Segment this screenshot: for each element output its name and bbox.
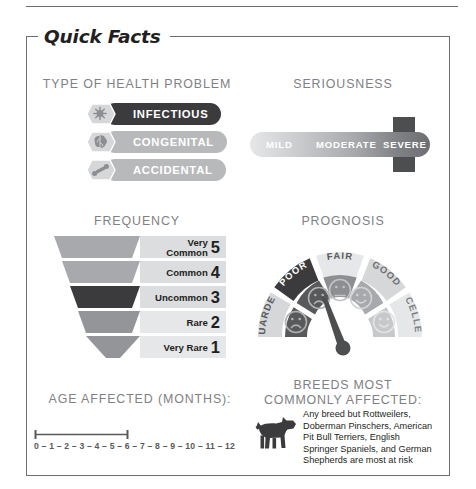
age-affected-heading: AGE AFFECTED (MONTHS):	[40, 392, 240, 406]
frequency-label-uncommon: Uncommon3	[140, 286, 226, 308]
breeds-heading-line2: COMMONLY AFFECTED:	[264, 393, 422, 407]
brain-icon	[86, 131, 116, 153]
type-option-congenital[interactable]: CONGENITAL	[86, 131, 216, 153]
frequency-row-very-rare[interactable]: Very Rare1	[54, 336, 226, 358]
frequency-row-very-common[interactable]: VeryCommon5	[54, 236, 226, 258]
type-option-accidental-label: ACCIDENTAL	[104, 159, 226, 181]
type-option-congenital-label: CONGENITAL	[104, 131, 227, 153]
frequency-label-rare: Rare2	[140, 311, 226, 333]
seriousness-level-moderate[interactable]: MODERATE	[316, 132, 377, 157]
type-option-accidental[interactable]: ACCIDENTAL	[86, 159, 216, 181]
seriousness-heading: SERIOUSNESS	[248, 77, 438, 91]
breeds-heading-line1: BREEDS MOST	[294, 378, 393, 392]
bandage-icon	[86, 159, 116, 181]
breeds-heading: BREEDS MOST COMMONLY AFFECTED:	[250, 378, 436, 408]
breeds-body-text: Any breed but Rottweilers, Doberman Pins…	[303, 409, 436, 467]
frequency-row-rare[interactable]: Rare2	[54, 311, 226, 333]
quick-facts-infographic: Quick Facts TYPE OF HEALTH PROBLEM INFEC…	[0, 0, 476, 489]
seriousness-level-severe[interactable]: SEVERE	[383, 132, 427, 157]
type-option-infectious[interactable]: INFECTIOUS	[86, 103, 211, 125]
age-range-bracket	[34, 429, 129, 440]
frequency-label-very-rare: Very Rare1	[140, 336, 226, 358]
frame-title-container: Quick Facts	[38, 26, 170, 48]
age-affected-scale[interactable]: 0 – 1 – 2 – 3 – 4 – 5 – 6 – 7 – 8 – 9 – …	[34, 427, 234, 457]
prognosis-heading: PROGNOSIS	[248, 214, 438, 228]
seriousness-level-mild[interactable]: MILD	[266, 132, 293, 157]
prognosis-needle	[322, 296, 351, 356]
frequency-row-uncommon[interactable]: Uncommon3	[54, 286, 226, 308]
type-option-infectious-label: INFECTIOUS	[104, 103, 221, 125]
prognosis-gauge[interactable]: GUARDED POOR FAIR GOOD EXCELLENT	[249, 233, 431, 361]
frequency-funnel: VeryCommon5 Common4 Uncommon3 Ra	[54, 236, 226, 358]
frequency-label-very-common: VeryCommon5	[140, 236, 226, 258]
page-title: Quick Facts	[44, 26, 161, 47]
seriousness-scale[interactable]: MILD MODERATE SEVERE	[250, 132, 430, 157]
dog-icon	[252, 410, 300, 454]
prognosis-label-fair: FAIR	[326, 250, 354, 262]
age-tick-labels: 0 – 1 – 2 – 3 – 4 – 5 – 6 – 7 – 8 – 9 – …	[34, 441, 234, 451]
germ-icon	[86, 103, 116, 125]
frequency-row-common[interactable]: Common4	[54, 261, 226, 283]
type-of-health-problem-heading: TYPE OF HEALTH PROBLEM	[42, 77, 232, 91]
frequency-label-common: Common4	[140, 261, 226, 283]
frequency-heading: FREQUENCY	[42, 214, 232, 228]
top-rule	[26, 6, 458, 7]
